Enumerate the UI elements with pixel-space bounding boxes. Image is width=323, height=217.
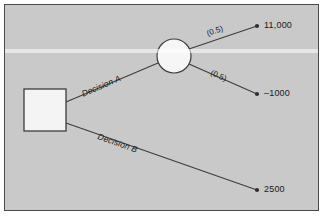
figure-frame: Decision A Decision B (0.5) (0.5) 11,000… xyxy=(4,4,319,211)
outcome-minus1000-marker xyxy=(255,92,259,96)
chance-node-circle[interactable] xyxy=(157,39,191,73)
outcome-label-2500: 2500 xyxy=(264,184,285,194)
outcome-label-11000: 11,000 xyxy=(264,20,292,30)
outcome-11000-marker xyxy=(255,24,259,28)
diagram-canvas xyxy=(5,5,319,211)
decision-node-square[interactable] xyxy=(24,89,66,131)
outcome-2500-marker xyxy=(255,188,259,192)
branch-decision-b-line xyxy=(66,123,257,190)
decision-tree-figure: Decision A Decision B (0.5) (0.5) 11,000… xyxy=(0,0,323,217)
outcome-label-minus1000: –1000 xyxy=(264,88,290,98)
